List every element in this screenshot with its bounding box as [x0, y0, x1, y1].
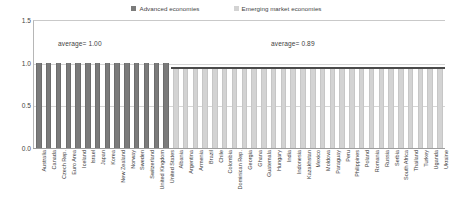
bar-slot	[337, 20, 347, 148]
bar-slot	[191, 20, 201, 148]
bar-slot	[122, 20, 132, 148]
bar-slot	[259, 20, 269, 148]
bar[interactable]	[320, 69, 325, 148]
bar[interactable]	[173, 69, 178, 148]
bar[interactable]	[261, 69, 266, 148]
bar[interactable]	[330, 69, 335, 148]
x-label-slot: New Zealand	[112, 150, 122, 218]
bar[interactable]	[212, 69, 217, 148]
annotation-average-emerging: average= 0.89	[271, 40, 315, 47]
bar[interactable]	[124, 63, 129, 148]
bar[interactable]	[369, 69, 374, 148]
bar-slot	[435, 20, 445, 148]
bar[interactable]	[105, 63, 110, 148]
x-label-slot: Philippines	[347, 150, 357, 218]
legend-item-emerging[interactable]: Emerging market economies	[234, 5, 322, 12]
bar[interactable]	[418, 69, 423, 148]
bar-slot	[142, 20, 152, 148]
bar[interactable]	[46, 63, 51, 148]
x-label-slot: Ukraine	[435, 150, 445, 218]
bar[interactable]	[144, 63, 149, 148]
y-axis: 1.5 1.0 0.5 0.0	[0, 20, 31, 149]
bar[interactable]	[242, 69, 247, 148]
bar[interactable]	[339, 69, 344, 148]
bar[interactable]	[56, 63, 61, 148]
x-label-slot: Ghana	[249, 150, 259, 218]
bar[interactable]	[114, 63, 119, 148]
bar-slot	[249, 20, 259, 148]
bar[interactable]	[163, 63, 168, 148]
x-label-slot: Israel	[83, 150, 93, 218]
bar-slot	[102, 20, 112, 148]
x-label-slot: Guatemala	[259, 150, 269, 218]
bar[interactable]	[290, 69, 295, 148]
x-label-slot: Sweden	[132, 150, 142, 218]
bar[interactable]	[193, 69, 198, 148]
bar[interactable]	[134, 63, 139, 148]
bar[interactable]	[300, 69, 305, 148]
bar[interactable]	[271, 69, 276, 148]
legend-label-emerging: Emerging market economies	[242, 5, 322, 12]
bar[interactable]	[427, 69, 432, 148]
bar-slot	[415, 20, 425, 148]
x-label-slot: Uganda	[425, 150, 435, 218]
bar[interactable]	[75, 63, 80, 148]
bar-slot	[230, 20, 240, 148]
bar[interactable]	[36, 63, 41, 148]
x-label-slot: Chile	[210, 150, 220, 218]
bar-slot	[181, 20, 191, 148]
x-axis-line	[33, 148, 445, 149]
x-label-slot: Georgia	[239, 150, 249, 218]
bar-slot	[200, 20, 210, 148]
bar[interactable]	[66, 63, 71, 148]
bar[interactable]	[398, 69, 403, 148]
x-label-slot: Albania	[171, 150, 181, 218]
legend-item-advanced[interactable]: Advanced economies	[131, 5, 199, 12]
x-label-slot: Russia	[376, 150, 386, 218]
bar[interactable]	[85, 63, 90, 148]
annotation-average-advanced: average= 1.00	[58, 40, 102, 47]
y-tick-label: 0.0	[1, 145, 31, 152]
x-label-slot: Paraguay	[327, 150, 337, 218]
x-label-slot: Indonesia	[288, 150, 298, 218]
bar[interactable]	[251, 69, 256, 148]
x-label-slot: Serbia	[386, 150, 396, 218]
bar[interactable]	[349, 69, 354, 148]
bar[interactable]	[359, 69, 364, 148]
bar-slot	[132, 20, 142, 148]
bar[interactable]	[232, 69, 237, 148]
bar[interactable]	[202, 69, 207, 148]
bar[interactable]	[154, 63, 159, 148]
bar[interactable]	[437, 69, 442, 148]
x-label-slot: Switzerland	[142, 150, 152, 218]
x-label-slot: Norway	[122, 150, 132, 218]
bar[interactable]	[310, 69, 315, 148]
x-label-slot: Colombia	[220, 150, 230, 218]
bar[interactable]	[95, 63, 100, 148]
x-label-slot: Brazil	[200, 150, 210, 218]
legend-label-advanced: Advanced economies	[139, 5, 199, 12]
square-swatch-icon	[131, 6, 136, 11]
bar-slot	[347, 20, 357, 148]
bar-slot	[112, 20, 122, 148]
bar-slot	[367, 20, 377, 148]
bar-slot	[376, 20, 386, 148]
x-label-slot: Kazakhstan	[298, 150, 308, 218]
x-label-slot: South Africa	[396, 150, 406, 218]
bar[interactable]	[388, 69, 393, 148]
x-label-slot: Iceland	[73, 150, 83, 218]
x-label-slot: Turkey	[415, 150, 425, 218]
bar-slot	[327, 20, 337, 148]
bar[interactable]	[379, 69, 384, 148]
x-label-slot: Korea	[102, 150, 112, 218]
y-tick-label: 1.5	[1, 17, 31, 24]
chart-legend: Advanced economies Emerging market econo…	[0, 2, 453, 14]
bar[interactable]	[222, 69, 227, 148]
y-tick-label: 0.5	[1, 102, 31, 109]
bar[interactable]	[281, 69, 286, 148]
bar[interactable]	[183, 69, 188, 148]
x-label-slot: Japan	[93, 150, 103, 218]
bar[interactable]	[408, 69, 413, 148]
bar-slot	[396, 20, 406, 148]
bar-slot	[425, 20, 435, 148]
